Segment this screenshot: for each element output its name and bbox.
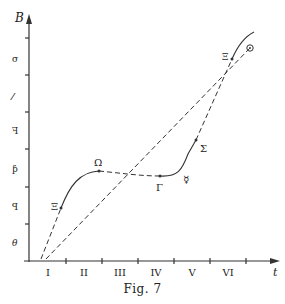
point-label-sigma: Σ (200, 143, 207, 154)
x-axis (24, 258, 272, 264)
y-tick-label: ƥ (12, 164, 18, 174)
figure-caption: Fig. 7 (0, 282, 285, 296)
point-label-gamma: Γ (156, 182, 163, 193)
x-axis-arrow-icon (270, 258, 280, 264)
point-gamma (159, 175, 162, 178)
y-axis-arrow-icon (26, 14, 32, 24)
sun-icon-center (249, 47, 251, 49)
x-tick-label: III (114, 267, 126, 278)
x-tick-label: VI (221, 267, 233, 278)
y-tick-label: σ (12, 54, 18, 64)
y-tick-label: ꟼ (12, 202, 18, 212)
point-label-xi-lower: Ξ (51, 201, 58, 212)
y-axis (25, 22, 29, 262)
x-tick-label: II (80, 267, 88, 278)
point-label-omega: Ω (94, 157, 102, 168)
dashed-segment-origin-xi (41, 208, 61, 259)
dashed-line-sun (46, 48, 250, 259)
y-axis-label: B (14, 11, 24, 25)
y-tick-label: θ (12, 238, 18, 248)
point-label-mercury: ☿ (183, 174, 189, 185)
solid-segment-gamma-sigma (160, 140, 196, 176)
point-xi-lower (60, 207, 63, 210)
y-tick-label: ꟻ (12, 126, 18, 136)
x-tick-label: I (46, 267, 50, 278)
figure-diagram: B t θ ꟼ ƥ ꟻ ⁄ σ I II III IV V VI Ξ Ω Γ ☿… (0, 0, 285, 304)
solid-segment-xi-omega (61, 171, 99, 208)
point-xi-upper (231, 58, 234, 61)
dashed-segment-sigma-xi (196, 59, 232, 140)
point-sigma (195, 139, 198, 142)
x-tick-label: IV (150, 267, 162, 278)
x-axis-label: t (273, 266, 278, 279)
dashed-segment-omega-gamma (99, 171, 160, 176)
x-tick-label: V (187, 267, 196, 278)
point-omega (98, 170, 101, 173)
point-label-xi-upper: Ξ (222, 52, 228, 62)
y-tick-label: ⁄ (10, 91, 16, 102)
